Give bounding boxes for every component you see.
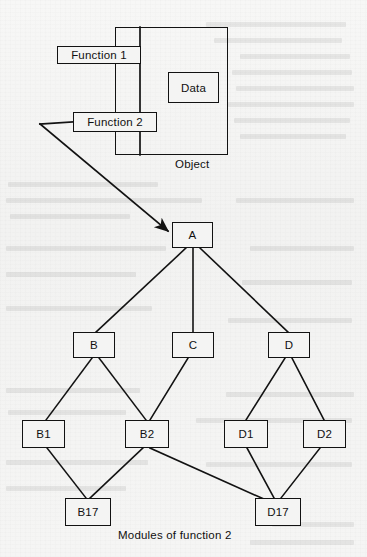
node-a[interactable]: A [172, 222, 213, 248]
figure-page: Object Function 1 Function 2 Data A B C … [0, 0, 367, 557]
edge-b-b2 [99, 358, 146, 420]
edge-b2-b17 [90, 448, 143, 498]
edge-a-d [200, 248, 288, 332]
node-d[interactable]: D [268, 332, 310, 358]
module-tree-edges [46, 248, 324, 500]
node-d2[interactable]: D2 [303, 420, 346, 448]
node-c[interactable]: C [172, 332, 214, 358]
edge-c-b2 [150, 358, 188, 420]
edge-a-b [96, 248, 186, 332]
edge-b-b1 [46, 358, 92, 420]
edge-b2-d17 [150, 448, 266, 500]
node-function-1[interactable]: Function 1 [57, 46, 141, 64]
node-d17[interactable]: D17 [255, 498, 301, 526]
node-d1[interactable]: D1 [224, 420, 268, 448]
node-function-2[interactable]: Function 2 [73, 112, 157, 132]
node-b1[interactable]: B1 [22, 420, 65, 448]
node-b17[interactable]: B17 [65, 498, 111, 526]
edge-d-d2 [292, 358, 324, 420]
figure-caption: Modules of function 2 [118, 529, 232, 541]
node-b2[interactable]: B2 [125, 420, 169, 448]
edge-d2-d17 [281, 448, 320, 498]
node-data[interactable]: Data [168, 72, 219, 103]
edge-d-d1 [246, 358, 285, 420]
node-b[interactable]: B [73, 332, 115, 358]
edge-b1-b17 [47, 448, 86, 498]
edge-d1-d17 [247, 448, 274, 498]
object-label: Object [175, 158, 209, 170]
